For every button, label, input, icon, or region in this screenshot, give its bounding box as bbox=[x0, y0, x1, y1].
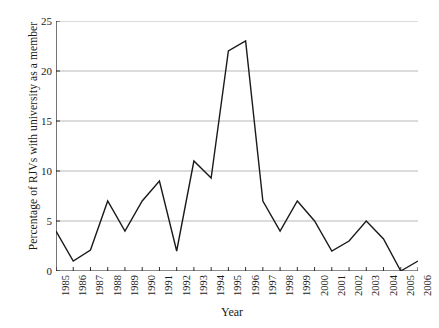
y-axis-tick-labels: 0510152025 bbox=[28, 21, 52, 271]
x-tick-label: 1985 bbox=[60, 275, 71, 309]
x-tick-label: 1999 bbox=[301, 275, 312, 309]
x-tick-label: 1992 bbox=[181, 275, 192, 309]
x-tick-label: 2006 bbox=[422, 275, 433, 309]
x-tick-label: 2003 bbox=[370, 275, 381, 309]
x-tick-label: 1993 bbox=[198, 275, 209, 309]
plot-svg bbox=[56, 21, 418, 271]
x-axis-title: Year bbox=[46, 305, 418, 320]
x-axis-tick-marks bbox=[56, 21, 418, 271]
chart-figure: Percentage of RJVs with university as a … bbox=[0, 0, 439, 328]
x-tick-label: 1987 bbox=[94, 275, 105, 309]
x-tick-label: 2004 bbox=[388, 275, 399, 309]
x-tick-label: 1989 bbox=[129, 275, 140, 309]
y-tick-label: 10 bbox=[32, 166, 52, 177]
gridlines bbox=[56, 21, 418, 221]
plot-area bbox=[56, 21, 418, 271]
x-tick-label: 1996 bbox=[250, 275, 261, 309]
y-tick-label: 15 bbox=[32, 116, 52, 127]
x-tick-label: 2005 bbox=[405, 275, 416, 309]
x-tick-label: 1990 bbox=[146, 275, 157, 309]
y-tick-label: 5 bbox=[32, 216, 52, 227]
x-tick-label: 2000 bbox=[319, 275, 330, 309]
data-series-line bbox=[56, 41, 418, 271]
x-tick-label: 1995 bbox=[232, 275, 243, 309]
y-tick-label: 20 bbox=[32, 66, 52, 77]
x-tick-label: 1988 bbox=[112, 275, 123, 309]
x-tick-label: 1986 bbox=[77, 275, 88, 309]
x-tick-label: 1994 bbox=[215, 275, 226, 309]
x-tick-label: 1991 bbox=[163, 275, 174, 309]
y-tick-label: 25 bbox=[32, 16, 52, 27]
x-axis-tick-labels: 1985198619871988198919901991199219931994… bbox=[56, 271, 418, 307]
x-tick-label: 2001 bbox=[336, 275, 347, 309]
y-tick-label: 0 bbox=[32, 266, 52, 277]
x-tick-label: 1997 bbox=[267, 275, 278, 309]
x-tick-label: 2002 bbox=[353, 275, 364, 309]
x-tick-label: 1998 bbox=[284, 275, 295, 309]
